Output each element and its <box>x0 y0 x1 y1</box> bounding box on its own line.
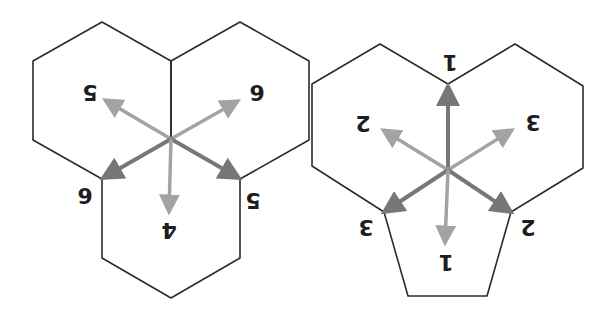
arrow-icon <box>448 130 512 170</box>
count-label: 5 <box>82 80 97 105</box>
arrow-icon <box>383 130 448 170</box>
hexagon-outline <box>171 22 309 179</box>
arrow-icon <box>169 139 171 212</box>
arrow-icon <box>103 139 171 178</box>
count-label: 6 <box>249 80 264 105</box>
hexagon-outline <box>448 44 583 212</box>
arrow-icon <box>171 139 239 178</box>
count-label: 2 <box>355 111 370 136</box>
polygons-layer <box>33 22 583 298</box>
vertex-figures-diagram: 56654123321 <box>0 0 614 315</box>
hexagon-outline <box>33 22 171 179</box>
arrow-icon <box>171 101 238 139</box>
count-label: 3 <box>358 215 373 240</box>
arrow-icon <box>105 100 171 139</box>
count-label: 5 <box>245 188 260 213</box>
count-label: 6 <box>77 183 92 208</box>
hexagon-outline <box>312 44 448 212</box>
arrow-icon <box>448 170 511 212</box>
count-label: 1 <box>438 250 453 275</box>
arrow-icon <box>445 170 448 243</box>
diagram-canvas: 56654123321 <box>0 0 614 315</box>
arrow-icon <box>384 170 448 212</box>
count-label: 3 <box>525 110 540 135</box>
count-label: 1 <box>442 50 457 75</box>
count-label: 2 <box>520 215 535 240</box>
count-label: 4 <box>161 218 176 243</box>
